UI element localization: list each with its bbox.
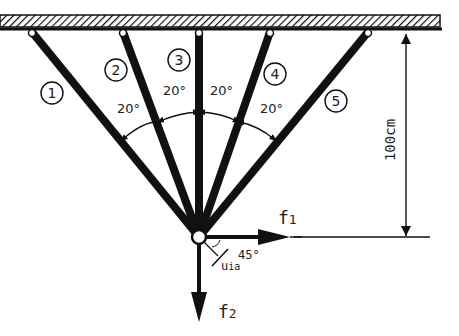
truss-bars xyxy=(32,32,368,237)
pin-icon xyxy=(196,30,203,37)
ceiling-support xyxy=(0,15,442,29)
bar-label-4: 4 xyxy=(264,63,286,85)
dimension-label: 100cm xyxy=(382,119,398,161)
angle-label: 20° xyxy=(210,83,233,98)
force-f1-label: f1 xyxy=(278,207,297,228)
bar-label-3: 3 xyxy=(168,49,190,71)
displacement-label: uia xyxy=(221,259,240,273)
svg-text:3: 3 xyxy=(175,52,184,68)
pin-icon xyxy=(267,30,274,37)
bar-4 xyxy=(199,32,270,237)
pin-icon xyxy=(29,30,36,37)
bar-label-2: 2 xyxy=(105,59,127,81)
truss-diagram: 20° 20° 20° 20° 1 2 3 4 5 100cm xyxy=(0,0,459,336)
svg-text:4: 4 xyxy=(271,66,280,82)
angle-45-label: 45° xyxy=(238,248,260,262)
displacement-uia: 45° uia xyxy=(204,240,260,273)
bar-label-5: 5 xyxy=(325,90,347,112)
force-f2: f2 xyxy=(191,244,237,322)
svg-text:2: 2 xyxy=(112,62,121,78)
angle-label: 20° xyxy=(163,83,186,98)
angle-label: 20° xyxy=(260,101,283,116)
angle-label: 20° xyxy=(117,101,140,116)
bar-label-1: 1 xyxy=(41,82,63,104)
svg-text:1: 1 xyxy=(48,85,57,101)
svg-text:5: 5 xyxy=(332,93,341,109)
force-f2-label: f2 xyxy=(218,301,237,322)
pin-joints xyxy=(29,30,372,37)
pin-icon xyxy=(365,30,372,37)
dimension-100cm: 100cm xyxy=(290,34,430,237)
pin-icon xyxy=(120,30,127,37)
free-node xyxy=(192,230,206,244)
